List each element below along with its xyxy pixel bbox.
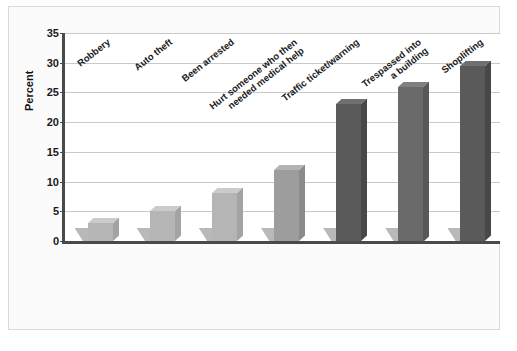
bar	[274, 170, 299, 241]
bar-side-face	[175, 206, 181, 241]
y-axis-tick-label: 5	[53, 205, 59, 217]
bar-top-face	[88, 218, 119, 223]
y-axis-tick-label: 0	[53, 235, 59, 247]
bar-side-face	[299, 164, 305, 241]
bar-top-face	[274, 165, 305, 170]
bar	[150, 211, 175, 241]
y-axis-tick-label: 20	[47, 116, 59, 128]
y-axis-tick-mark	[60, 241, 65, 242]
chart-frame: Percent 05101520253035 RobberyAuto theft…	[8, 6, 500, 330]
bar	[460, 66, 485, 241]
y-axis-tick-label: 15	[47, 146, 59, 158]
y-axis-tick-label: 30	[47, 57, 59, 69]
bar-side-face	[423, 81, 429, 241]
y-axis-tick-label: 35	[47, 27, 59, 39]
bar-front-face	[88, 223, 113, 241]
plot-area: 05101520253035 RobberyAuto theftBeen arr…	[62, 33, 500, 244]
bar-front-face	[274, 170, 299, 241]
bar-side-face	[361, 99, 367, 241]
y-axis-tick-label: 10	[47, 176, 59, 188]
bar-side-face	[237, 188, 243, 241]
bar	[212, 193, 237, 241]
bar	[88, 223, 113, 241]
chart-figure: Percent 05101520253035 RobberyAuto theft…	[0, 0, 517, 351]
bar-front-face	[212, 193, 237, 241]
bar-side-face	[485, 60, 491, 241]
bar-front-face	[150, 211, 175, 241]
bar-front-face	[460, 66, 485, 241]
